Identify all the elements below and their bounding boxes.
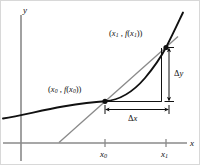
point-label-x0-close: ))	[76, 84, 82, 94]
marker-point-x0	[102, 99, 107, 104]
tick-label-x1-sub: 1	[165, 153, 168, 159]
marker-point-x1	[163, 45, 168, 50]
tick-label-x1: x1	[161, 150, 168, 159]
delta-y-variable: y	[179, 68, 183, 78]
point-label-x1-close: ))	[137, 28, 143, 38]
tick-label-x0-sub: 0	[104, 153, 107, 159]
figure-canvas	[1, 1, 200, 165]
delta-y-label: Δy	[174, 69, 183, 78]
figure-container: y x x0 x1 (x1 , f(x1)) (x0 , f(x0)) Δy Δ…	[0, 0, 200, 165]
point-label-x1: (x1 , f(x1))	[109, 29, 142, 39]
x-axis-label-text: x	[190, 138, 194, 148]
y-axis-label: y	[23, 6, 27, 15]
delta-x-label: Δx	[128, 114, 137, 123]
point-label-x0: (x0 , f(x0))	[48, 85, 81, 95]
tick-label-x0: x0	[100, 150, 107, 159]
y-axis-label-text: y	[23, 5, 27, 15]
x-axis-label: x	[190, 139, 194, 148]
delta-x-variable: x	[133, 113, 137, 123]
function-curve	[3, 13, 183, 119]
